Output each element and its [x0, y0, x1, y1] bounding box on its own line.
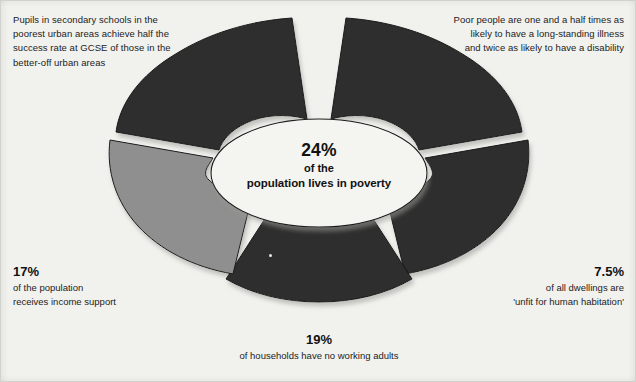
- stat-income-support-line-2: receives income support: [13, 296, 116, 307]
- stat-worklessness-line-1: of households have no working adults: [240, 350, 399, 361]
- stat-worklessness-value: 19%: [1, 331, 636, 348]
- stat-housing: 7.5% of all dwellings are 'unfit for hum…: [434, 263, 624, 309]
- stat-income-support-line-1: of the population: [13, 282, 83, 293]
- note-health: Poor people are one and a half times as …: [452, 13, 624, 56]
- center-line-3: population lives in poverty: [194, 176, 444, 191]
- stat-housing-value: 7.5%: [434, 263, 624, 280]
- center-statistic: 24% of the population lives in poverty: [194, 139, 444, 191]
- stat-housing-line-1: of all dwellings are: [546, 282, 624, 293]
- stat-income-support: 17% of the population receives income su…: [13, 263, 203, 309]
- image-speck-artifact: [269, 254, 272, 257]
- infographic-canvas: 24% of the population lives in poverty P…: [0, 0, 636, 382]
- center-percent: 24%: [194, 139, 444, 161]
- note-education: Pupils in secondary schools in the poore…: [13, 13, 173, 70]
- stat-income-support-value: 17%: [13, 263, 203, 280]
- center-line-2: of the: [194, 161, 444, 176]
- stat-housing-line-2: 'unfit for human habitation': [513, 296, 624, 307]
- stat-worklessness: 19% of households have no working adults: [1, 331, 636, 363]
